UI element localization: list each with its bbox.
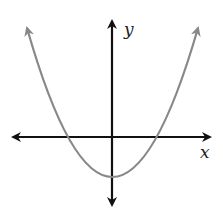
x-axis-label: x — [200, 142, 210, 162]
parabola-diagram: y x — [0, 0, 223, 212]
y-axis-label: y — [123, 19, 134, 39]
